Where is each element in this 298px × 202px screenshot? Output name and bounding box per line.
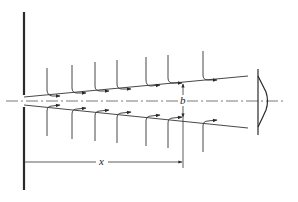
label-b: b	[179, 95, 187, 106]
centerline-velocity-profile	[258, 69, 268, 135]
jet-diagram	[0, 0, 298, 202]
upper-velocity-profiles	[47, 51, 217, 96]
lower-velocity-profiles	[47, 105, 217, 152]
label-x: x	[98, 156, 105, 167]
